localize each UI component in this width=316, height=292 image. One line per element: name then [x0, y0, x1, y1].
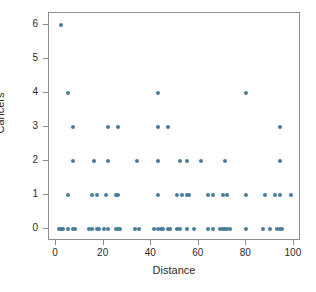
data-point — [278, 159, 282, 163]
data-point — [244, 91, 248, 95]
data-point — [90, 193, 94, 197]
data-point — [261, 227, 265, 231]
x-tick-label: 60 — [178, 247, 218, 259]
y-tick-label: 4 — [0, 87, 38, 97]
y-tick — [43, 92, 48, 93]
y-tick-label: 1 — [0, 189, 38, 199]
x-tick — [245, 240, 246, 245]
y-tick-label: 0 — [0, 223, 38, 233]
data-point — [156, 159, 160, 163]
plot-data-area — [49, 13, 299, 239]
data-point — [178, 159, 182, 163]
y-tick — [43, 24, 48, 25]
x-tick-label: 80 — [225, 247, 265, 259]
data-point — [116, 125, 120, 129]
x-tick — [198, 240, 199, 245]
data-point — [244, 227, 248, 231]
data-point — [95, 193, 99, 197]
data-point — [97, 227, 101, 231]
data-point — [180, 193, 184, 197]
data-point — [273, 193, 277, 197]
data-point — [66, 227, 70, 231]
data-point — [118, 227, 122, 231]
data-point — [268, 227, 272, 231]
data-point — [59, 23, 63, 27]
data-point — [185, 159, 189, 163]
data-point — [66, 91, 70, 95]
data-point — [152, 227, 156, 231]
data-point — [228, 227, 232, 231]
data-point — [71, 125, 75, 129]
data-point — [102, 227, 106, 231]
y-tick — [43, 228, 48, 229]
x-tick-label: 0 — [35, 247, 75, 259]
data-point — [106, 227, 110, 231]
data-point — [133, 227, 137, 231]
data-point — [106, 125, 110, 129]
data-point — [278, 193, 282, 197]
data-point — [178, 227, 182, 231]
data-point — [137, 227, 141, 231]
data-point — [206, 227, 210, 231]
data-point — [66, 193, 70, 197]
data-point — [71, 159, 75, 163]
scatter-plot-figure: Distance Cancers 0204060801000123456 — [0, 0, 316, 292]
data-point — [168, 227, 172, 231]
data-point — [280, 227, 284, 231]
plot-frame — [48, 12, 300, 240]
data-point — [156, 193, 160, 197]
data-point — [175, 193, 179, 197]
data-point — [156, 125, 160, 129]
data-point — [106, 159, 110, 163]
y-tick-label: 2 — [0, 155, 38, 165]
x-tick-label: 40 — [130, 247, 170, 259]
data-point — [211, 227, 215, 231]
x-tick — [150, 240, 151, 245]
y-tick-label: 6 — [0, 19, 38, 29]
data-point — [289, 193, 293, 197]
data-point — [206, 193, 210, 197]
data-point — [244, 193, 248, 197]
data-point — [278, 125, 282, 129]
data-point — [135, 159, 139, 163]
data-point — [156, 91, 160, 95]
data-point — [73, 227, 77, 231]
x-tick — [103, 240, 104, 245]
data-point — [187, 193, 191, 197]
data-point — [263, 193, 267, 197]
data-point — [192, 227, 196, 231]
y-tick — [43, 58, 48, 59]
y-tick — [43, 126, 48, 127]
x-tick — [55, 240, 56, 245]
x-tick-label: 20 — [83, 247, 123, 259]
data-point — [225, 193, 229, 197]
data-point — [199, 159, 203, 163]
x-tick-label: 100 — [273, 247, 313, 259]
data-point — [61, 227, 65, 231]
data-point — [166, 125, 170, 129]
data-point — [211, 193, 215, 197]
y-tick — [43, 194, 48, 195]
y-tick-label: 3 — [0, 121, 38, 131]
data-point — [223, 159, 227, 163]
y-tick — [43, 160, 48, 161]
data-point — [92, 159, 96, 163]
y-tick-label: 5 — [0, 53, 38, 63]
data-point — [161, 227, 165, 231]
data-point — [221, 193, 225, 197]
x-axis-label: Distance — [48, 264, 300, 276]
data-point — [185, 227, 189, 231]
data-point — [90, 227, 94, 231]
data-point — [116, 193, 120, 197]
x-tick — [293, 240, 294, 245]
data-point — [104, 193, 108, 197]
